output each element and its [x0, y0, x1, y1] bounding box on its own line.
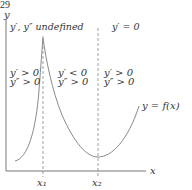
tick-label-x2: x₂ — [92, 178, 102, 188]
y-axis-label: y — [4, 10, 10, 20]
x1-top-annotation: y′, y″ undefined — [10, 22, 84, 32]
region-left-line2: y″ > 0 — [10, 77, 40, 87]
region-right-line2: y″ > 0 — [104, 77, 134, 87]
curve-label: y = f(x) — [142, 101, 180, 111]
x2-top-annotation: y′ = 0 — [112, 22, 140, 32]
function-curve — [15, 38, 139, 161]
x-axis-label: x — [150, 166, 156, 176]
region-middle-line2: y″ > 0 — [58, 77, 88, 87]
tick-label-x1: x₁ — [37, 178, 47, 188]
